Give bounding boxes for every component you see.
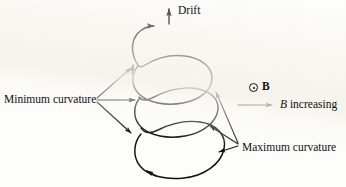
b-increasing-text: increasing xyxy=(290,98,337,110)
maximum-curvature-label: Maximum curvature xyxy=(242,142,336,154)
b-increasing-label: B increasing xyxy=(280,99,337,111)
minimum-curvature-pointers xyxy=(97,68,135,133)
figure-canvas: Drift Minimum curvature B B increasing M… xyxy=(0,0,346,187)
b-increasing-symbol: B xyxy=(280,98,287,110)
trajectory-middle-loop xyxy=(135,88,218,137)
drift-label: Drift xyxy=(178,5,200,17)
trajectory-drift-tail xyxy=(132,26,154,62)
field-out-of-page-icon xyxy=(249,83,258,92)
cycloid-trajectory xyxy=(132,26,224,179)
trajectory-top-loop xyxy=(133,56,212,105)
trajectory-arrow-upper xyxy=(132,65,133,74)
trajectory-bottom-loop xyxy=(135,121,225,178)
b-field-label: B xyxy=(262,81,270,93)
minimum-curvature-label: Minimum curvature xyxy=(4,94,96,106)
